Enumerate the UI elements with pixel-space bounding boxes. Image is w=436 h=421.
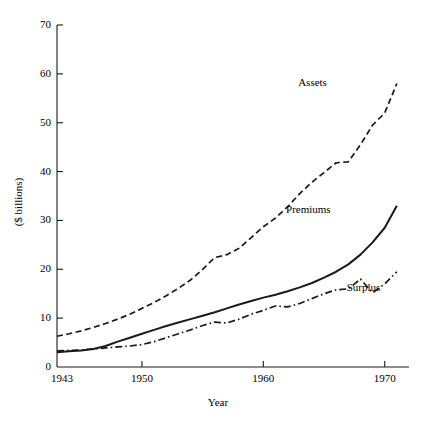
y-axis-title: ($ billions) <box>12 166 24 238</box>
chart-axes <box>57 25 409 367</box>
series-line-premiums <box>57 206 397 353</box>
y-tick-label: 60 <box>15 67 51 79</box>
y-tick-label: 70 <box>15 18 51 30</box>
x-tick-label: 1950 <box>118 372 166 384</box>
x-axis-title: Year <box>186 396 250 408</box>
series-line-assets <box>57 84 397 337</box>
x-tick-label: 1960 <box>239 372 287 384</box>
series-label-assets: Assets <box>298 76 327 88</box>
series-label-premiums: Premiums <box>286 203 331 215</box>
y-tick-label: 10 <box>15 311 51 323</box>
y-tick-label: 0 <box>15 360 51 372</box>
chart-plot-area <box>0 0 436 421</box>
chart-figure: 010203040506070 1943195019601970 AssetsP… <box>0 0 436 421</box>
series-label-surplus: Surplus <box>347 281 381 293</box>
y-tick-label: 50 <box>15 116 51 128</box>
y-tick-label: 20 <box>15 262 51 274</box>
chart-series <box>57 84 397 353</box>
x-tick-label: 1943 <box>51 372 99 384</box>
x-tick-label: 1970 <box>361 372 409 384</box>
